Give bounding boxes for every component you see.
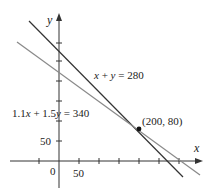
origin-label: 0	[50, 165, 56, 177]
x-axis-arrow-icon	[195, 158, 203, 164]
intersection-label: (200, 80)	[142, 115, 183, 128]
line-x-plus-y-280	[29, 21, 183, 177]
line1-equation-label: x + y = 280	[93, 69, 144, 81]
x-tick-label-50: 50	[73, 167, 85, 179]
y-axis-arrow-icon	[56, 13, 62, 21]
x-axis-label: x	[193, 141, 200, 155]
line2-equation-label: 1.1x + 1.5y = 340	[12, 107, 90, 119]
y-tick-label-50: 50	[40, 135, 52, 147]
linear-system-graph: y x 0 50 50 x + y = 280 1.1x + 1.5y = 34…	[0, 0, 211, 192]
y-axis-label: y	[46, 13, 53, 27]
intersection-point	[137, 127, 142, 132]
